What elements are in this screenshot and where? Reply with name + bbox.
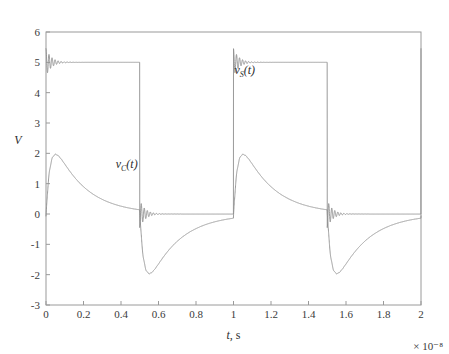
y-tick-label: 3 [35, 117, 41, 129]
x-tick-label: 1 [231, 308, 237, 320]
curve-label-vs: vS(t) [234, 63, 255, 79]
y-tick-label: -2 [31, 269, 40, 281]
x-tick-label: 1.6 [339, 308, 353, 320]
x-tick-label: 0.6 [152, 308, 166, 320]
x-tick-label: 1.2 [264, 308, 278, 320]
x-tick-label: 0.2 [77, 308, 91, 320]
y-tick-label: -3 [31, 299, 41, 311]
y-tick-label: 6 [35, 26, 41, 38]
x-tick-label: 0.8 [189, 308, 203, 320]
x-axis-exponent-label: × 10⁻⁸ [413, 340, 443, 352]
y-tick-label: 2 [35, 147, 41, 159]
chart-background [0, 0, 449, 354]
x-axis-label: t, s [226, 328, 240, 342]
x-tick-label: 2 [418, 308, 424, 320]
x-tick-label: 0.4 [114, 308, 128, 320]
figure-container: 00.20.40.60.811.21.41.61.82 6543210-1-2-… [0, 0, 449, 354]
y-tick-label: 1 [35, 178, 41, 190]
y-tick-label: 5 [35, 56, 41, 68]
curve-label-vc: vC(t) [116, 157, 138, 173]
x-tick-label: 1.4 [302, 308, 316, 320]
y-tick-label: 4 [35, 87, 41, 99]
x-tick-label: 1.8 [377, 308, 391, 320]
x-tick-label: 0 [43, 308, 49, 320]
y-tick-label: -1 [31, 238, 40, 250]
y-tick-label: 0 [35, 208, 41, 220]
voltage-waveform-chart: 00.20.40.60.811.21.41.61.82 6543210-1-2-… [0, 0, 449, 354]
